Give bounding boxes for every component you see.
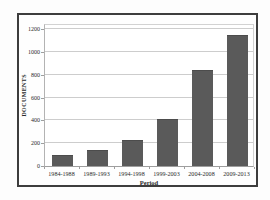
- x-tick-label: 1994-1998: [114, 170, 149, 178]
- gridline: [45, 142, 253, 143]
- y-tick-labels: 020040060080010001200: [24, 24, 42, 167]
- y-axis-tick: [41, 120, 44, 121]
- figure: { "chart_data": { "type": "bar", "title"…: [0, 0, 270, 200]
- gridline: [45, 74, 253, 75]
- x-tick-label: 2009-2013: [219, 170, 254, 178]
- x-axis-tick: [184, 167, 185, 169]
- y-axis-tick: [41, 98, 44, 99]
- y-tick-label: 200: [22, 140, 40, 147]
- y-tick-label: 800: [22, 72, 40, 79]
- bar: [192, 70, 213, 166]
- y-axis-tick: [41, 143, 44, 144]
- y-axis-tick: [41, 75, 44, 76]
- x-tick-label: 1989-1993: [79, 170, 114, 178]
- bar: [227, 35, 248, 166]
- y-tick-label: 400: [22, 117, 40, 124]
- bar: [122, 140, 143, 166]
- bar: [52, 155, 73, 166]
- x-tick-label: 2004-2008: [184, 170, 219, 178]
- y-tick-label: 1200: [22, 26, 40, 33]
- gridline: [45, 119, 253, 120]
- x-axis-tick: [149, 167, 150, 169]
- gridline: [45, 28, 253, 29]
- x-tick-label: 1999-2003: [149, 170, 184, 178]
- plot-area: [44, 24, 254, 167]
- y-axis-tick: [41, 52, 44, 53]
- gridline: [45, 51, 253, 52]
- x-axis-tick: [44, 167, 45, 169]
- bar: [87, 150, 108, 166]
- x-tick-labels: 1984-19881989-19931994-19981999-20032004…: [44, 170, 254, 178]
- y-axis-tick: [41, 29, 44, 30]
- x-axis-tick: [254, 167, 255, 169]
- gridline: [45, 97, 253, 98]
- x-axis-tick: [79, 167, 80, 169]
- chart-frame: DOCUMENTS 020040060080010001200 1984-198…: [17, 13, 258, 187]
- x-axis-tick: [219, 167, 220, 169]
- y-tick-label: 600: [22, 95, 40, 102]
- x-tick-label: 1984-1988: [44, 170, 79, 178]
- y-tick-label: 1000: [22, 49, 40, 56]
- x-axis-title: Period: [44, 179, 254, 186]
- y-tick-label: 0: [22, 163, 40, 170]
- x-axis-tick: [114, 167, 115, 169]
- bar: [157, 119, 178, 166]
